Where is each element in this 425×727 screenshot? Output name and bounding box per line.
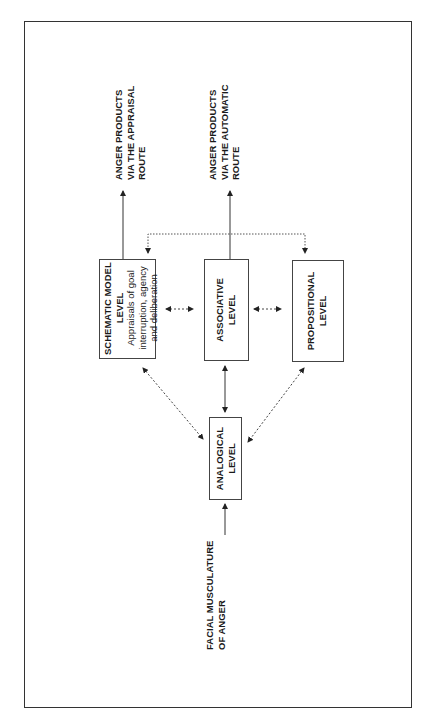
propositional-line1: PROPOSITIONAL xyxy=(305,265,317,357)
edge-analogical-propositional xyxy=(248,368,304,442)
appraisal-route-label: ANGER PRODUCTS VIA THE APPRAISAL ROUTE xyxy=(113,70,148,180)
appraisal-line3: ROUTE xyxy=(136,70,148,180)
schematic-desc-line1: Appraisals of goal xyxy=(125,261,137,355)
propositional-line2: LEVEL xyxy=(317,265,329,357)
analogical-level-label: ANALOGICAL LEVEL xyxy=(214,422,237,495)
edge-analogical-schematic xyxy=(143,368,203,439)
automatic-line3: ROUTE xyxy=(230,70,242,180)
analogical-line2: LEVEL xyxy=(226,422,238,495)
facial-line2: OF ANGER xyxy=(216,520,228,650)
facial-musculature-label: FACIAL MUSCULATURE OF ANGER xyxy=(204,520,227,650)
analogical-line1: ANALOGICAL xyxy=(214,422,226,495)
schematic-desc-line3: and deliberation xyxy=(148,261,160,355)
associative-line2: LEVEL xyxy=(226,264,238,356)
schematic-model-level-label: SCHEMATIC MODEL LEVEL Appraisals of goal… xyxy=(102,261,160,355)
schematic-desc-line2: interruption, agency xyxy=(137,261,149,355)
automatic-line1: ANGER PRODUCTS xyxy=(207,70,219,180)
edge-associative-branch xyxy=(148,234,305,253)
associative-line1: ASSOCIATIVE xyxy=(214,264,226,356)
associative-level-label: ASSOCIATIVE LEVEL xyxy=(214,264,237,356)
appraisal-line1: ANGER PRODUCTS xyxy=(113,70,125,180)
propositional-level-label: PROPOSITIONAL LEVEL xyxy=(305,265,328,357)
automatic-route-label: ANGER PRODUCTS VIA THE AUTOMATIC ROUTE xyxy=(207,70,242,180)
schematic-title-line1: SCHEMATIC MODEL xyxy=(102,261,114,355)
schematic-title-line2: LEVEL xyxy=(114,261,126,355)
automatic-line2: VIA THE AUTOMATIC xyxy=(219,70,231,180)
facial-line1: FACIAL MUSCULATURE xyxy=(204,520,216,650)
appraisal-line2: VIA THE APPRAISAL xyxy=(125,70,137,180)
